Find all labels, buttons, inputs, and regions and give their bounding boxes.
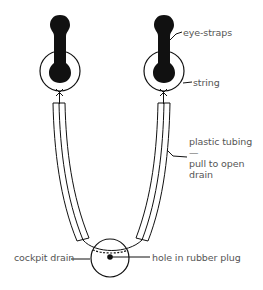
right-plastic-tube (136, 103, 170, 241)
right-eye-strap (153, 15, 175, 83)
hole-dot (107, 254, 113, 260)
cockpit-drain-label: cockpit drain (14, 252, 74, 263)
eye-straps-label: eye-straps (183, 27, 232, 38)
string-label: string (193, 77, 220, 88)
right-eye-strap-assembly (144, 15, 184, 104)
tubing-label-line-2: pull to open (189, 158, 261, 169)
cockpit-drain-plug (91, 239, 129, 277)
leader-eye-straps (170, 32, 182, 40)
tubing-label-line-3: drain (189, 169, 261, 180)
leader-tubing (167, 150, 187, 157)
hole-in-rubber-plug-label: hole in rubber plug (152, 252, 241, 263)
leader-lines (71, 32, 192, 259)
leader-string (183, 82, 192, 83)
plastic-tubing-label: plastic tubing— pull to open drain (189, 136, 261, 180)
tube-connecting-string (83, 240, 142, 251)
left-plastic-tube (53, 103, 89, 241)
tubing-label-line-1: plastic tubing— (189, 136, 261, 158)
left-eye-strap-assembly (40, 15, 80, 104)
left-eye-strap (49, 15, 71, 83)
